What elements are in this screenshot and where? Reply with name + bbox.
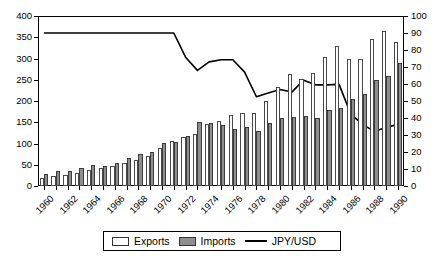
y-tick-right <box>404 186 408 187</box>
x-tick <box>127 186 128 190</box>
bar-imports-1971 <box>174 142 178 186</box>
bar-imports-1982 <box>304 116 308 186</box>
y-tick-right <box>404 33 408 34</box>
legend-label-imports: Imports <box>201 236 236 247</box>
y-tick-label-right: 70 <box>411 62 422 72</box>
y-tick-label-right: 30 <box>411 130 422 140</box>
y-tick-right <box>404 101 408 102</box>
bar-imports-1962 <box>68 171 72 186</box>
y-tick-right <box>404 169 408 170</box>
chart-root: 050100150200250300350400 010203040506070… <box>0 0 448 260</box>
y-tick-right <box>404 16 408 17</box>
bar-imports-1983 <box>315 118 319 186</box>
x-tick <box>138 186 139 190</box>
y-tick-label-right: 60 <box>411 79 422 89</box>
legend-label-jpyusd: JPY/USD <box>272 236 316 247</box>
bar-imports-1975 <box>221 125 225 186</box>
bar-imports-1978 <box>256 131 260 186</box>
y-tick-left <box>34 80 38 81</box>
x-tick <box>221 186 222 190</box>
y-tick-right <box>404 135 408 136</box>
x-tick <box>174 186 175 190</box>
bar-imports-1963 <box>79 168 83 186</box>
legend-item-jpyusd: JPY/USD <box>245 236 316 247</box>
x-tick <box>209 186 210 190</box>
bar-imports-1977 <box>245 127 249 187</box>
y-tick-label-right: 40 <box>411 113 422 123</box>
x-tick <box>386 186 387 190</box>
bar-imports-1986 <box>351 99 355 186</box>
bar-imports-1960 <box>44 174 48 186</box>
y-tick-label-right: 0 <box>411 181 416 191</box>
imports-swatch-icon <box>179 237 196 246</box>
x-tick <box>103 186 104 190</box>
exports-swatch-icon <box>112 237 129 246</box>
y-tick-label-left: 350 <box>2 32 32 42</box>
bar-imports-1988 <box>374 80 378 186</box>
x-tick <box>150 186 151 190</box>
bar-imports-1972 <box>186 136 190 186</box>
y-tick-right <box>404 67 408 68</box>
x-tick <box>162 186 163 190</box>
legend-item-imports: Imports <box>179 236 236 247</box>
y-tick-label-right: 20 <box>411 147 422 157</box>
y-tick-left <box>34 16 38 17</box>
bar-imports-1961 <box>56 171 60 186</box>
x-tick <box>374 186 375 190</box>
x-tick <box>280 186 281 190</box>
x-tick <box>363 186 364 190</box>
x-tick <box>327 186 328 190</box>
bar-imports-1984 <box>327 110 331 187</box>
bar-imports-1976 <box>233 129 237 186</box>
x-tick <box>398 186 399 190</box>
y-tick-label-left: 0 <box>2 181 32 191</box>
bar-imports-1979 <box>268 123 272 186</box>
y-tick-left <box>34 59 38 60</box>
x-tick <box>268 186 269 190</box>
x-tick <box>304 186 305 190</box>
x-tick <box>245 186 246 190</box>
y-tick-label-right: 90 <box>411 28 422 38</box>
x-tick <box>256 186 257 190</box>
jpyusd-line-swatch-icon <box>245 240 267 242</box>
y-tick-right <box>404 152 408 153</box>
y-tick-right <box>404 84 408 85</box>
y-tick-label-right: 10 <box>411 164 422 174</box>
x-tick <box>56 186 57 190</box>
y-tick-label-left: 400 <box>2 11 32 21</box>
y-tick-label-right: 80 <box>411 45 422 55</box>
bar-imports-1987 <box>363 94 367 186</box>
x-tick <box>197 186 198 190</box>
bar-imports-1985 <box>339 108 343 186</box>
y-tick-left <box>34 101 38 102</box>
legend-item-exports: Exports <box>112 236 170 247</box>
bar-imports-1990 <box>398 63 402 186</box>
x-tick <box>292 186 293 190</box>
y-tick-label-right: 100 <box>411 11 427 21</box>
x-tick <box>315 186 316 190</box>
x-tick <box>339 186 340 190</box>
y-tick-right <box>404 50 408 51</box>
legend-label-exports: Exports <box>134 236 170 247</box>
bar-imports-1974 <box>209 123 213 186</box>
x-tick <box>115 186 116 190</box>
y-tick-left <box>34 37 38 38</box>
y-tick-label-left: 300 <box>2 54 32 64</box>
y-tick-left <box>34 122 38 123</box>
jpyusd-line-series <box>44 33 398 132</box>
x-tick <box>68 186 69 190</box>
y-tick-label-left: 200 <box>2 96 32 106</box>
bar-imports-1965 <box>103 166 107 186</box>
y-tick-label-left: 100 <box>2 139 32 149</box>
bar-imports-1967 <box>127 158 131 186</box>
y-tick-label-left: 250 <box>2 75 32 85</box>
bar-imports-1989 <box>386 76 390 187</box>
y-tick-label-left: 150 <box>2 117 32 127</box>
y-tick-left <box>34 165 38 166</box>
x-tick <box>351 186 352 190</box>
chart-legend: Exports Imports JPY/USD <box>103 231 341 251</box>
x-tick <box>44 186 45 190</box>
x-tick <box>91 186 92 190</box>
y-tick-label-right: 50 <box>411 96 422 106</box>
bar-imports-1969 <box>150 152 154 186</box>
